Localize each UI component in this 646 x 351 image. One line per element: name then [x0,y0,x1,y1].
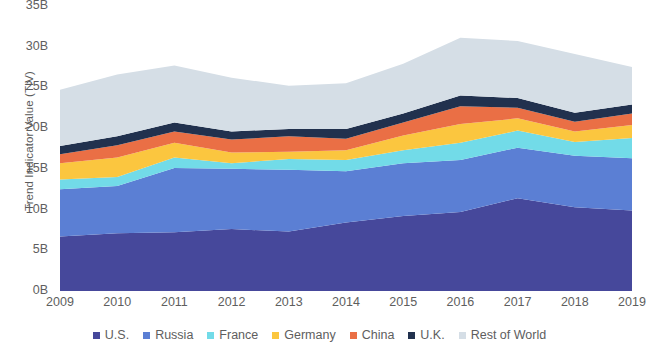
legend-item-u-k[interactable]: U.K. [408,328,444,342]
y-axis-tick: 30B [26,40,48,53]
x-axis-tick: 2011 [161,295,188,309]
plot-area [60,6,632,291]
legend-label: Rest of World [471,328,547,342]
legend-swatch-u-s [93,332,100,339]
x-axis-tick: 2014 [332,295,360,309]
legend-swatch-germany [272,332,279,339]
x-axis-tick: 2013 [275,295,303,309]
x-axis-tick: 2017 [504,295,532,309]
y-axis-tick: 25B [26,80,48,93]
legend-item-russia[interactable]: Russia [143,328,193,342]
legend-swatch-china [350,332,357,339]
x-axis-tick: 2012 [218,295,246,309]
legend-label: Germany [284,328,335,342]
legend-item-china[interactable]: China [350,328,395,342]
legend-item-rest-of-world[interactable]: Rest of World [459,328,547,342]
y-axis-tick: 10B [26,203,48,216]
x-axis-tick: 2010 [103,295,131,309]
y-axis-tick: 5B [33,243,48,256]
y-axis-tick: 15B [26,162,48,175]
x-axis-tick: 2009 [46,295,74,309]
x-axis-tick: 2015 [389,295,417,309]
y-axis-tick-labels: 0B5B10B15B20B25B30B35B [0,0,58,300]
legend-swatch-russia [143,332,150,339]
legend-item-germany[interactable]: Germany [272,328,335,342]
legend-swatch-france [207,332,214,339]
x-axis-tick: 2019 [618,295,646,309]
x-axis-tick-labels: 2009201020112012201320142015201620172018… [60,295,632,315]
legend-label: U.S. [105,328,129,342]
area-series-canvas [60,6,632,291]
y-axis-tick: 20B [26,121,48,134]
chart-legend: U.S.RussiaFranceGermanyChinaU.K.Rest of … [0,328,639,342]
legend-label: U.K. [420,328,444,342]
legend-label: China [362,328,395,342]
y-axis-tick: 35B [26,0,48,12]
legend-swatch-u-k [408,332,415,339]
legend-label: Russia [155,328,193,342]
legend-swatch-rest-of-world [459,332,466,339]
legend-item-u-s[interactable]: U.S. [93,328,129,342]
legend-item-france[interactable]: France [207,328,258,342]
x-axis-tick: 2016 [446,295,474,309]
x-axis-tick: 2018 [561,295,589,309]
legend-label: France [219,328,258,342]
